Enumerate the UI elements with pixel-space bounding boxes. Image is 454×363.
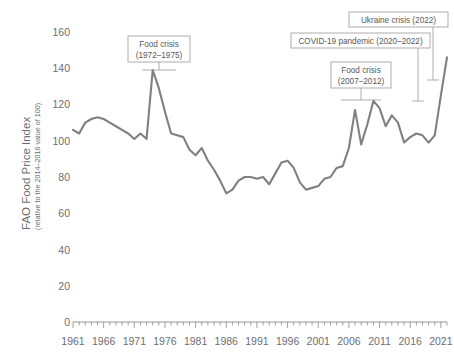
annotation-line2-food-crisis-2007: (2007–2012) bbox=[338, 77, 385, 86]
x-tick-1971: 1971 bbox=[123, 335, 147, 347]
y-tick-60: 60 bbox=[58, 207, 70, 219]
y-tick-labels: 160 140 120 100 80 60 40 20 0 bbox=[52, 26, 70, 328]
x-tick-1981: 1981 bbox=[184, 335, 208, 347]
x-tick-1966: 1966 bbox=[92, 335, 116, 347]
y-tick-40: 40 bbox=[58, 244, 70, 256]
annotation-line1-food-crisis-2007: Food crisis bbox=[341, 66, 381, 75]
x-tick-2021: 2021 bbox=[429, 335, 453, 347]
fao-food-price-index-chart: FAO Food Price Index (relative to the 20… bbox=[0, 0, 454, 363]
x-axis bbox=[73, 322, 447, 328]
annotation-food-crisis-2007: Food crisis (2007–2012) bbox=[331, 62, 391, 100]
y-tick-100: 100 bbox=[52, 135, 70, 147]
annotation-food-crisis-1972: Food crisis (1972–1975) bbox=[128, 36, 190, 70]
annotation-line1-food-crisis-1972: Food crisis bbox=[139, 40, 179, 49]
annotation-bracket-food-crisis-1972 bbox=[142, 62, 176, 70]
x-tick-1976: 1976 bbox=[153, 335, 177, 347]
y-tick-140: 140 bbox=[52, 62, 70, 74]
annotation-line2-food-crisis-1972: (1972–1975) bbox=[136, 51, 183, 60]
annotation-line1-ukraine-crisis: Ukraine crisis (2022) bbox=[361, 16, 436, 25]
chart-svg: FAO Food Price Index (relative to the 20… bbox=[0, 0, 454, 363]
x-tick-2011: 2011 bbox=[368, 335, 391, 347]
y-axis-title-group: FAO Food Price Index (relative to the 20… bbox=[20, 103, 42, 230]
x-tick-labels: 1961196619711976198119861991199620012006… bbox=[61, 335, 452, 347]
y-axis-title: FAO Food Price Index bbox=[20, 117, 32, 230]
y-tick-20: 20 bbox=[58, 280, 70, 292]
x-tick-1986: 1986 bbox=[215, 335, 239, 347]
y-tick-0: 0 bbox=[64, 316, 70, 328]
y-axis-subtitle: (relative to the 2014–2016 value of 100) bbox=[33, 103, 42, 230]
annotation-bracket-food-crisis-2007 bbox=[341, 88, 381, 100]
annotation-line1-covid-19-pandemic: COVID-19 pandemic (2020–2022) bbox=[298, 37, 423, 46]
y-tick-80: 80 bbox=[58, 171, 70, 183]
x-tick-1996: 1996 bbox=[276, 335, 300, 347]
y-tick-120: 120 bbox=[52, 98, 70, 110]
x-tick-2016: 2016 bbox=[399, 335, 423, 347]
annotation-bracket-covid-19-pandemic bbox=[412, 48, 424, 101]
y-tick-160: 160 bbox=[52, 26, 70, 38]
x-tick-2006: 2006 bbox=[337, 335, 361, 347]
x-tick-1961: 1961 bbox=[61, 335, 85, 347]
x-tick-2001: 2001 bbox=[307, 335, 331, 347]
x-tick-1991: 1991 bbox=[245, 335, 269, 347]
